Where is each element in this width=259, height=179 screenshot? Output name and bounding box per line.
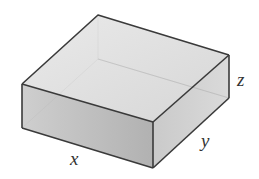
label-x: x (69, 148, 79, 169)
label-z: z (236, 69, 245, 90)
label-y: y (199, 130, 210, 151)
box-diagram: x y z (0, 0, 259, 179)
diagram-canvas: x y z (0, 0, 259, 179)
